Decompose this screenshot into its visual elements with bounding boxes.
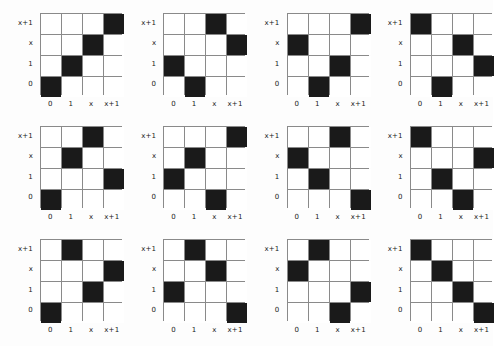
matrix-cell: [453, 148, 473, 168]
matrix-cell: [351, 148, 371, 168]
y-axis-tick-label: x: [4, 147, 36, 168]
y-axis-tick-labels: x+1x10: [251, 126, 283, 208]
matrix-cell: [185, 240, 205, 260]
matrix-cell: [351, 190, 371, 210]
y-axis-tick-label: x: [127, 34, 159, 55]
x-axis-tick-label: x: [451, 97, 472, 111]
y-axis-tick-label: 0: [127, 75, 159, 96]
matrix-panel: x+1x1001xx+1: [247, 0, 370, 113]
x-axis-tick-label: 1: [307, 210, 328, 224]
y-axis-tick-label: x: [127, 147, 159, 168]
matrix-cell: [309, 148, 329, 168]
x-axis-tick-label: x+1: [471, 210, 492, 224]
matrix-cell: [83, 190, 103, 210]
matrix-cell: [206, 56, 226, 76]
y-axis-tick-label: x: [374, 260, 406, 281]
matrix-cell: [104, 56, 124, 76]
permutation-matrix: [40, 239, 122, 321]
matrix-cell: [62, 169, 82, 189]
y-axis-tick-labels: x+1x10: [251, 239, 283, 321]
x-axis-tick-labels: 01xx+1: [410, 210, 492, 224]
matrix-cell: [330, 77, 350, 97]
x-axis-tick-labels: 01xx+1: [410, 323, 492, 337]
matrix-cell: [411, 148, 431, 168]
matrix-cell: [227, 261, 247, 281]
matrix-cell: [288, 169, 308, 189]
matrix-cell: [330, 127, 350, 147]
y-axis-tick-label: 1: [251, 167, 283, 188]
y-axis-tick-labels: x+1x10: [374, 13, 406, 95]
matrix-panel: x+1x1001xx+1: [123, 226, 246, 339]
y-axis-tick-label: x+1: [374, 126, 406, 147]
y-axis-tick-label: 0: [374, 301, 406, 322]
x-axis-tick-label: x: [81, 97, 102, 111]
x-axis-tick-label: 1: [430, 210, 451, 224]
matrix-cell: [309, 169, 329, 189]
matrix-cell: [41, 169, 61, 189]
panel-plot-area: x+1x1001xx+1: [40, 126, 120, 206]
panel-plot-area: x+1x1001xx+1: [287, 126, 367, 206]
matrix-cell: [185, 169, 205, 189]
x-axis-tick-label: 0: [163, 97, 184, 111]
matrix-cell: [164, 261, 184, 281]
matrix-cell: [83, 127, 103, 147]
matrix-cell: [411, 77, 431, 97]
y-axis-tick-label: 0: [127, 301, 159, 322]
x-axis-tick-labels: 01xx+1: [287, 210, 369, 224]
y-axis-tick-label: 0: [4, 75, 36, 96]
matrix-cell: [432, 77, 452, 97]
x-axis-tick-label: x+1: [348, 323, 369, 337]
x-axis-tick-label: x+1: [102, 97, 123, 111]
matrix-cell: [41, 148, 61, 168]
matrix-cell: [453, 14, 473, 34]
matrix-cell: [164, 14, 184, 34]
matrix-cell: [474, 127, 494, 147]
matrix-cell: [351, 240, 371, 260]
x-axis-tick-label: 1: [61, 210, 82, 224]
x-axis-tick-label: 0: [40, 210, 61, 224]
matrix-cell: [206, 240, 226, 260]
x-axis-tick-label: 0: [287, 97, 308, 111]
matrix-cell: [288, 77, 308, 97]
x-axis-tick-label: 1: [307, 97, 328, 111]
matrix-cell: [227, 35, 247, 55]
matrix-cell: [351, 14, 371, 34]
matrix-cell: [351, 35, 371, 55]
matrix-cell: [309, 190, 329, 210]
matrix-cell: [185, 56, 205, 76]
matrix-panel: x+1x1001xx+1: [370, 113, 493, 226]
matrix-cell: [351, 303, 371, 323]
matrix-cell: [351, 127, 371, 147]
matrix-cell: [104, 77, 124, 97]
matrix-cell: [185, 282, 205, 302]
matrix-cell: [432, 240, 452, 260]
matrix-cell: [164, 303, 184, 323]
matrix-cell: [104, 169, 124, 189]
x-axis-tick-labels: 01xx+1: [40, 323, 122, 337]
y-axis-tick-label: 1: [251, 280, 283, 301]
x-axis-tick-labels: 01xx+1: [287, 97, 369, 111]
x-axis-tick-label: 1: [184, 323, 205, 337]
x-axis-tick-labels: 01xx+1: [163, 97, 245, 111]
matrix-cell: [288, 56, 308, 76]
matrix-cell: [309, 77, 329, 97]
x-axis-tick-label: x+1: [225, 210, 246, 224]
y-axis-tick-labels: x+1x10: [4, 13, 36, 95]
matrix-cell: [474, 190, 494, 210]
matrix-cell: [330, 148, 350, 168]
y-axis-tick-label: 1: [4, 167, 36, 188]
x-axis-tick-label: x: [328, 210, 349, 224]
matrix-cell: [41, 35, 61, 55]
matrix-cell: [227, 77, 247, 97]
matrix-cell: [83, 303, 103, 323]
matrix-cell: [288, 261, 308, 281]
panel-plot-area: x+1x1001xx+1: [410, 239, 490, 319]
matrix-cell: [330, 303, 350, 323]
matrix-cell: [330, 240, 350, 260]
matrix-cell: [474, 169, 494, 189]
x-axis-tick-labels: 01xx+1: [287, 323, 369, 337]
matrix-cell: [432, 261, 452, 281]
matrix-cell: [206, 127, 226, 147]
y-axis-tick-labels: x+1x10: [374, 239, 406, 321]
y-axis-tick-label: 0: [374, 75, 406, 96]
